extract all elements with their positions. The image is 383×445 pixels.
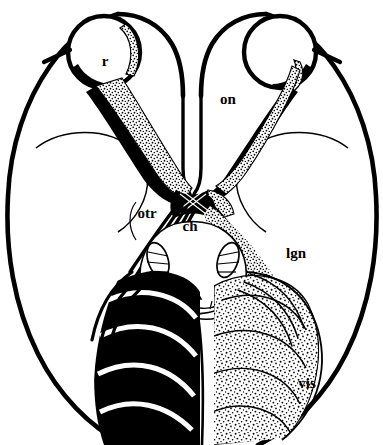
- label-on: on: [220, 91, 237, 107]
- visual-pathway-figure: r on otr ch lgn vis: [0, 0, 383, 445]
- label-vis: vis: [298, 375, 316, 391]
- label-ch: ch: [183, 218, 199, 234]
- figure-canvas: r on otr ch lgn vis: [0, 0, 383, 445]
- label-otr: otr: [137, 205, 156, 221]
- interhemispheric-fissure: [183, 96, 201, 194]
- label-r: r: [102, 53, 109, 69]
- label-lgn: lgn: [286, 245, 307, 261]
